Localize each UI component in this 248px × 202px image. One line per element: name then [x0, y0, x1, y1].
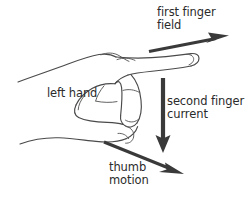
field-arrow-head: [206, 33, 229, 44]
index-finger-top-edge: [116, 54, 191, 58]
label-thumb-motion: thumb motion: [109, 161, 149, 187]
label-thumb-line2: motion: [109, 174, 149, 187]
flemings-left-hand-rule-diagram: first finger field left hand second fing…: [0, 0, 248, 202]
label-first-finger-field: first finger field: [157, 6, 216, 32]
label-first-finger-line2: field: [157, 19, 216, 32]
folded-fingers-left-arc: [75, 105, 79, 117]
label-second-finger-current: second finger current: [167, 95, 244, 121]
second-finger-right-edge: [131, 75, 141, 123]
folded-fingers-lower-arc: [79, 117, 123, 124]
label-left-hand: left hand: [47, 87, 97, 100]
label-second-finger-line2: current: [167, 108, 244, 121]
hand-top-contour: [18, 54, 116, 82]
second-finger-left-edge: [115, 82, 122, 116]
folded-finger-crease-mid: [96, 101, 117, 102]
second-finger-tip-crease: [126, 120, 138, 122]
index-fingernail: [186, 54, 194, 64]
second-finger-knuckle-crease: [123, 90, 139, 93]
field-arrow-shaft: [149, 39, 216, 52]
label-left-hand-line1: left hand: [47, 87, 97, 100]
index-finger-bottom-edge: [128, 66, 191, 75]
field-arrow: [149, 33, 229, 52]
